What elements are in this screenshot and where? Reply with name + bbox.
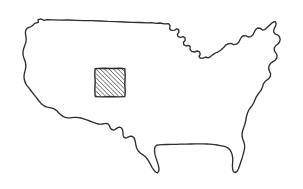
us-map-figure: United States outline map with highlight… xyxy=(0,0,303,189)
highlighted-state-region: Hatched rectangular state in the mountai… xyxy=(95,68,125,97)
figure-root: United States outline map with highlight… xyxy=(0,0,303,189)
highlighted-state-hatch-fill xyxy=(96,69,125,97)
